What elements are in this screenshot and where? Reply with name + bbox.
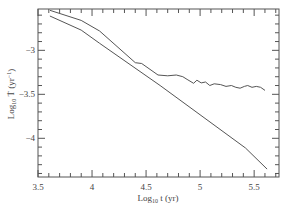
major-ticks: [38, 9, 279, 177]
x-tick-label: 4.5: [140, 182, 152, 192]
y-tick-labels: −3−3.5−4: [19, 45, 36, 143]
x-tick-label: 5.5: [249, 182, 261, 192]
series-layer: [50, 10, 267, 169]
y-axis-label: Log10 Ṫ (yr−1): [6, 69, 17, 119]
line-chart: 3.544.555.5 −3−3.5−4 Log10 t (yr) Log10 …: [0, 0, 284, 206]
y-tick-label: −4: [25, 133, 35, 143]
minor-ticks: [38, 9, 279, 177]
series-line-upper: [50, 10, 265, 90]
x-tick-label: 5: [198, 182, 203, 192]
series-line-lower: [50, 16, 267, 169]
x-tick-label: 3.5: [32, 182, 44, 192]
x-tick-label: 4: [90, 182, 95, 192]
plot-frame: [38, 9, 279, 177]
x-tick-labels: 3.544.555.5: [32, 182, 260, 192]
x-axis-label: Log10 t (yr): [138, 193, 179, 204]
y-tick-label: −3.5: [19, 89, 36, 99]
y-tick-label: −3: [25, 45, 35, 55]
